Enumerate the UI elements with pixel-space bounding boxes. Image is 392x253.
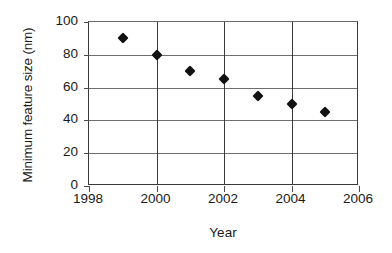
- y-tick-label: 80: [18, 47, 78, 61]
- x-gridline: [157, 22, 158, 184]
- x-tick-label: 2000: [121, 192, 191, 206]
- y-tick-label: 60: [18, 80, 78, 94]
- data-point-marker: [286, 98, 297, 109]
- y-gridline: [89, 153, 357, 154]
- y-gridline: [89, 88, 357, 89]
- y-gridline: [89, 120, 357, 121]
- chart-figure: Minimum feature size (nm) Year 020406080…: [0, 0, 392, 253]
- y-tick-mark: [84, 55, 89, 56]
- y-tick-mark: [84, 88, 89, 89]
- y-tick-label: 40: [18, 113, 78, 127]
- x-axis-title: Year: [88, 225, 358, 240]
- data-point-marker: [185, 66, 196, 77]
- data-point-marker: [151, 49, 162, 60]
- data-point-marker: [218, 74, 229, 85]
- y-tick-mark: [84, 120, 89, 121]
- plot-area: [88, 21, 358, 185]
- x-tick-label: 2006: [323, 192, 392, 206]
- x-tick-label: 1998: [53, 192, 123, 206]
- x-gridline: [224, 22, 225, 184]
- x-tick-label: 2004: [256, 192, 326, 206]
- x-tick-label: 2002: [188, 192, 258, 206]
- y-tick-label: 0: [18, 178, 78, 192]
- y-tick-label: 20: [18, 145, 78, 159]
- data-point-marker: [117, 33, 128, 44]
- data-point-marker: [252, 90, 263, 101]
- y-tick-label: 100: [18, 14, 78, 28]
- y-axis-title: Minimum feature size (nm): [14, 5, 40, 205]
- y-tick-mark: [84, 153, 89, 154]
- data-point-marker: [320, 107, 331, 118]
- y-gridline: [89, 55, 357, 56]
- y-tick-mark: [84, 22, 89, 23]
